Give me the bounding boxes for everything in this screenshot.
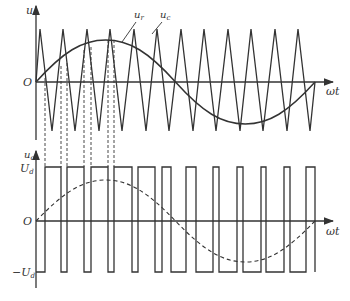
sine-callout-label: ur [134, 9, 144, 22]
top-y-axis-label: u [26, 4, 33, 17]
top-origin-label: O [23, 76, 32, 89]
bottom-y-axis-label: uo [24, 149, 35, 162]
bottom-origin-label: O [23, 215, 32, 228]
pwm-output-pulses [36, 167, 315, 272]
pwm-diagram: u O ωt ur uc uo Ud O [0, 0, 350, 301]
negative-level-label: −Ud [12, 266, 36, 280]
positive-level-label: Ud [20, 162, 34, 176]
bottom-panel: uo Ud O −Ud ωt [12, 149, 340, 288]
carrier-triangle-wave [36, 29, 315, 131]
carrier-callout-label: uc [160, 9, 170, 22]
bottom-x-axis-label: ωt [326, 225, 340, 238]
top-panel: u O ωt ur uc [23, 4, 340, 140]
top-x-axis-label: ωt [326, 85, 340, 98]
